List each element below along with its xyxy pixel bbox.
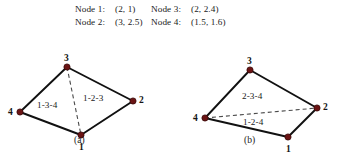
mesh-node-label-1: 1 [286,144,291,152]
mesh-node-dot [247,67,253,73]
mesh-node-label-4: 4 [193,113,198,123]
mesh-node-label-2: 2 [139,95,144,105]
mesh-node-dot [17,109,23,115]
mesh-node-label-3: 3 [64,53,69,63]
figure-canvas: Node 1:(2, 1)Node 3:(2, 2.4)Node 2:(3, 2… [0,0,341,152]
legend-node-coords: (2, 2.4) [191,3,239,16]
mesh-node-dot [130,98,136,104]
mesh-node-dot [202,115,208,121]
triangle-region-label: 2-3-4 [242,91,262,101]
triangle-region-label: 1-2-3 [83,93,103,103]
mesh-node-dot [64,64,70,70]
mesh-node-dot [285,134,291,140]
legend-node-label: Node 1: [75,3,115,16]
triangle-region-label: 1-3-4 [37,100,57,110]
diagram-caption-a: (a) [74,135,85,146]
mesh-edge-solid [20,112,81,135]
mesh-node-label-4: 4 [8,107,13,117]
diagram-caption-b: (b) [244,135,255,146]
mesh-edge-solid [288,108,317,137]
legend-node-coords: (2, 1) [115,3,151,16]
mesh-node-label-3: 3 [247,56,252,66]
mesh-edge-solid [250,70,317,108]
legend-node-label: Node 3: [151,3,191,16]
mesh-edge-dashed-diagonal [67,67,81,135]
triangle-region-label: 1-2-4 [243,117,263,127]
mesh-edges-svg [170,25,340,152]
mesh-node-label-2: 2 [323,102,328,112]
mesh-diagram-b: 12342-3-41-2-4(b) [170,25,340,152]
mesh-edge-solid [81,101,133,135]
mesh-edges-svg [0,25,170,152]
mesh-node-dot [314,105,320,111]
mesh-diagram-a: 12341-3-41-2-3(a) [0,25,170,152]
